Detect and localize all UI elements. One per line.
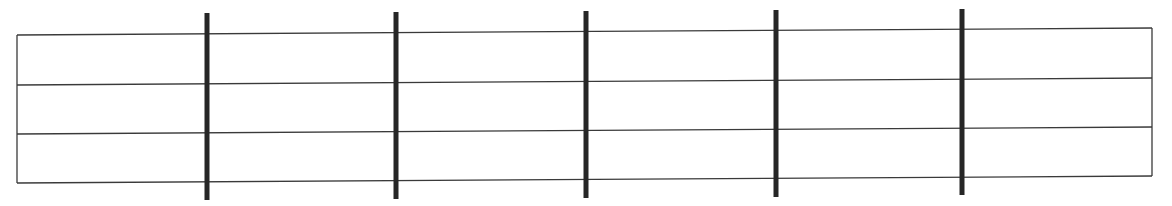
- vertical-bar: [774, 10, 779, 197]
- vertical-bar: [960, 9, 965, 195]
- fretboard-diagram: [0, 0, 1172, 206]
- vertical-bar: [584, 11, 589, 198]
- vertical-bar: [394, 12, 399, 199]
- vertical-bars: [205, 9, 965, 200]
- vertical-bar: [205, 13, 210, 200]
